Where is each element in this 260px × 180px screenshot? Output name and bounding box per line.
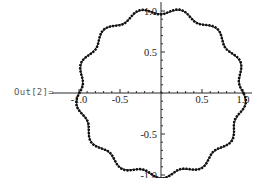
y-axis-tick-labels: 1.00.5-0.5-1.0 <box>140 6 157 178</box>
x-tick-label: 0.5 <box>195 94 208 105</box>
plot-graphics[interactable]: -1.0-0.50.51.0 1.00.5-0.5-1.0 <box>52 2 252 178</box>
output-cell-label: Out[2]= <box>14 87 54 97</box>
x-tick-label: 1.0 <box>236 94 249 105</box>
mathematica-output-cell: Out[2]= -1.0-0.50.51.0 1.00.5-0.5-1.0 <box>0 0 260 180</box>
y-tick-label: -0.5 <box>140 129 157 140</box>
y-tick-label: 0.5 <box>144 47 157 58</box>
x-axis-tick-labels: -1.0-0.50.51.0 <box>71 94 250 105</box>
plot-svg: -1.0-0.50.51.0 1.00.5-0.5-1.0 <box>52 2 252 178</box>
x-tick-label: -0.5 <box>112 94 129 105</box>
